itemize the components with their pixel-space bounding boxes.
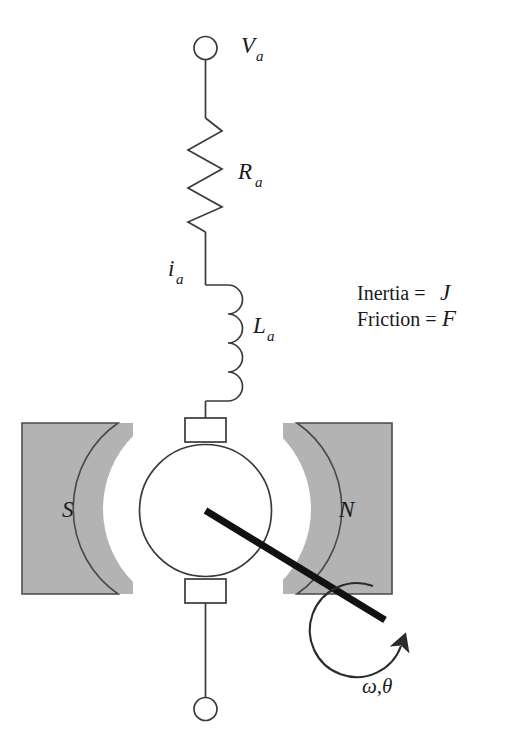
top-terminal-node-icon (194, 37, 217, 60)
label-rotation: ω,θ (362, 674, 392, 698)
label-friction-symbol: F (441, 306, 457, 331)
inductor-group (206, 285, 243, 418)
coil-inductor-icon (206, 285, 243, 401)
label-source-voltage-subscript: a (256, 48, 264, 64)
label-inductance-subscript: a (267, 328, 275, 344)
label-current-subscript: a (176, 271, 184, 287)
label-source-voltage: V a (241, 33, 264, 64)
label-resistance-symbol: R (237, 159, 252, 184)
bottom-terminal-node-icon (194, 698, 217, 721)
brush-bottom-block (185, 579, 226, 603)
label-resistance: R a (237, 159, 263, 190)
brush-top-block (185, 418, 226, 442)
curved-rotation-arrow-icon (310, 583, 401, 677)
zigzag-resistor-icon (188, 118, 222, 232)
top-terminal-group (194, 37, 217, 119)
label-resistance-subscript: a (255, 174, 263, 190)
label-inductance: L a (252, 313, 275, 344)
bottom-terminal-group (194, 603, 217, 721)
rotation-arrow-group (310, 583, 401, 677)
resistor-group (188, 118, 222, 285)
label-inertia: Inertia = J (357, 280, 452, 305)
label-pole-south: S (62, 497, 74, 522)
label-inertia-text: Inertia = (357, 282, 425, 304)
label-pole-north: N (338, 497, 356, 522)
stator-pole-south-group (22, 423, 133, 594)
motor-diagram: V a R a i a L a S N Inertia = J Frictio (0, 0, 518, 753)
label-inertia-symbol: J (440, 280, 452, 305)
label-current: i a (168, 256, 184, 287)
motor-schematic-canvas: V a R a i a L a S N Inertia = J Frictio (0, 0, 518, 753)
magnet-left-body (22, 423, 133, 594)
label-friction: Friction = F (357, 306, 457, 331)
label-current-symbol: i (168, 256, 174, 281)
label-inductance-symbol: L (252, 313, 266, 338)
label-friction-text: Friction = (357, 308, 437, 330)
